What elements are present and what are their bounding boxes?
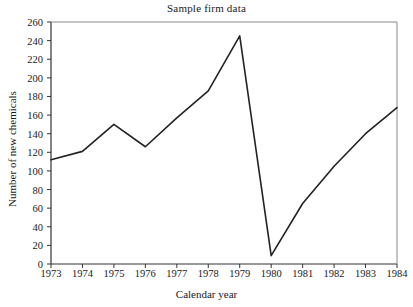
y-tick-label: 80	[9, 184, 43, 195]
y-tick-label: 220	[9, 54, 43, 65]
data-series-line	[51, 36, 397, 256]
line-chart: Sample firm data Number of new chemicals…	[0, 0, 413, 307]
x-tick-label: 1984	[377, 268, 413, 279]
y-tick-label: 160	[9, 110, 43, 121]
y-tick-label: 100	[9, 165, 43, 176]
y-tick-label: 120	[9, 147, 43, 158]
y-tick-label: 20	[9, 240, 43, 251]
y-tick-label: 60	[9, 203, 43, 214]
y-tick-label: 200	[9, 72, 43, 83]
y-tick-label: 260	[9, 17, 43, 28]
y-tick-label: 40	[9, 221, 43, 232]
y-tick-label: 180	[9, 91, 43, 102]
y-tick-label: 240	[9, 35, 43, 46]
plot-area	[0, 0, 413, 307]
y-tick-label: 140	[9, 128, 43, 139]
axes	[51, 22, 397, 264]
